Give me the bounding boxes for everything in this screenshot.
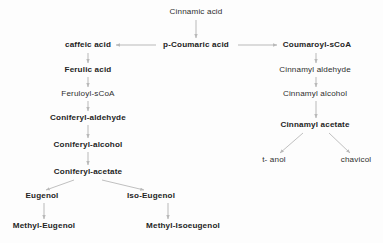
node-caffeic_acid: caffeic acid — [65, 41, 111, 49]
node-methyl_eugenol: Methyl-Eugenol — [13, 222, 76, 230]
pathway-diagram: Cinnamic acidcaffeic acidp-Coumaric acid… — [0, 0, 383, 243]
node-cinnamyl_aldehyde: Cinnamyl aldehyde — [279, 66, 351, 74]
node-coumaroyl_scoa: Coumaroyl-sCoA — [283, 41, 351, 49]
node-ferulic_acid: Ferulic acid — [65, 66, 112, 74]
arrow-cinnacet-to-chavicol — [329, 133, 350, 153]
node-t_anol: t- anol — [262, 156, 286, 164]
node-chavicol: chavicol — [341, 156, 372, 164]
arrow-conacet-to-eugenol — [46, 180, 74, 190]
node-eugenol: Eugenol — [25, 192, 58, 200]
node-cinnamyl_alcohol: Cinnamyl alcohol — [283, 90, 347, 98]
node-methyl_isoeugenol: Methyl-Isoeugenol — [146, 222, 220, 230]
node-p_coumaric_acid: p-Coumaric acid — [163, 41, 229, 49]
node-cinnamic_acid: Cinnamic acid — [170, 8, 223, 16]
arrow-conacet-to-isoeugenol — [102, 180, 144, 190]
node-cinnamyl_acetate: Cinnamyl acetate — [280, 121, 349, 129]
node-iso_eugenol: Iso-Eugenol — [127, 192, 175, 200]
node-coniferyl_alcohol: Coniferyl-alcohol — [54, 141, 123, 149]
node-feruloyl_scoa: Feruloyl-sCoA — [61, 90, 114, 98]
node-coniferyl_acetate: Coniferyl-acetate — [54, 168, 122, 176]
node-coniferyl_aldehyde: Coniferyl-aldehyde — [50, 114, 126, 122]
arrow-cinnacet-to-tanol — [280, 133, 303, 153]
